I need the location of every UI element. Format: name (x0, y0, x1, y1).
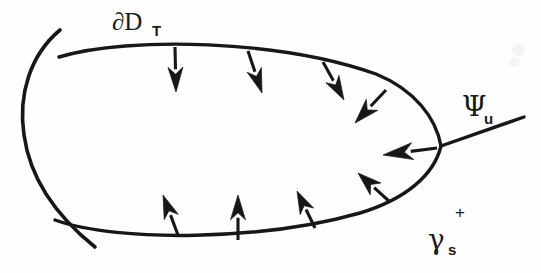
partial-D-T-base: ∂D (112, 8, 142, 35)
gamma-s-superscript: + (455, 203, 465, 222)
gamma-s-base: γ (428, 223, 445, 256)
partial-D-T-subscript: T (152, 22, 161, 39)
gamma-s-subscript: s (448, 241, 456, 258)
invariant-manifold-diagram: ∂D T Ψ u + γ s (0, 0, 541, 273)
figure-background (0, 0, 541, 273)
psi-u-subscript: u (484, 110, 493, 127)
figure-root: ∂D T Ψ u + γ s (0, 0, 541, 273)
psi-u-base: Ψ (462, 90, 487, 123)
